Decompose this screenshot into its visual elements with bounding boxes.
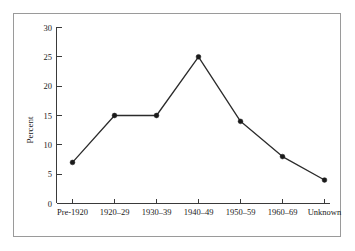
- y-tick-label-0: 0: [48, 199, 52, 209]
- data-point-1940-49: [196, 54, 201, 59]
- x-tick-label-1940-49: 1940–49: [184, 207, 214, 217]
- data-series-markers: [70, 54, 327, 182]
- x-tick-label-pre-1920: Pre-1920: [57, 207, 88, 217]
- y-tick-label-30: 30: [44, 23, 53, 33]
- line-chart-plot: 0 5 10 15 20 25 30 Percent Pre-1920 1920…: [0, 0, 355, 251]
- y-tick-label-20: 20: [44, 81, 53, 91]
- y-tick-label-25: 25: [44, 52, 53, 62]
- x-tick-label-1920-29: 1920–29: [100, 207, 130, 217]
- x-tick-label-1950-59: 1950–59: [226, 207, 256, 217]
- data-point-unknown: [322, 178, 327, 183]
- x-axis-tick-labels: Pre-1920 1920–29 1930–39 1940–49 1950–59…: [57, 207, 342, 217]
- x-tick-label-1960-69: 1960–69: [268, 207, 298, 217]
- y-axis-ticks: [57, 28, 62, 204]
- y-tick-label-10: 10: [44, 140, 53, 150]
- data-point-1950-59: [238, 119, 243, 124]
- y-tick-label-5: 5: [48, 169, 52, 179]
- data-point-1920-29: [112, 113, 117, 118]
- x-axis-ticks: [73, 199, 325, 204]
- y-axis-tick-labels: 0 5 10 15 20 25 30: [44, 23, 53, 209]
- y-tick-label-15: 15: [44, 111, 53, 121]
- chart-figure: 0 5 10 15 20 25 30 Percent Pre-1920 1920…: [0, 0, 355, 251]
- x-tick-label-1930-39: 1930–39: [142, 207, 172, 217]
- data-point-1960-69: [280, 154, 285, 159]
- data-series-line: [73, 57, 325, 180]
- y-axis-title: Percent: [25, 116, 35, 143]
- data-point-1930-39: [154, 113, 159, 118]
- data-point-pre-1920: [70, 160, 75, 165]
- x-tick-label-unknown: Unknown: [308, 207, 342, 217]
